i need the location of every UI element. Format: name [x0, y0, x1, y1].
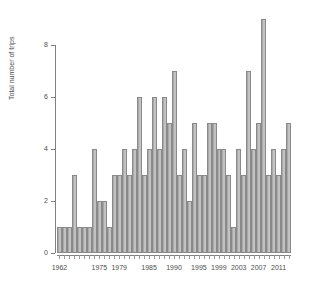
chart-title: [0, 0, 309, 12]
x-tick-mark: [164, 255, 165, 259]
x-tick-mark: [204, 255, 205, 259]
x-tick-mark: [284, 255, 285, 259]
x-tick-mark: [139, 255, 140, 259]
bar-series: [57, 20, 291, 253]
x-tick-mark: [229, 255, 230, 259]
x-tick-mark: [59, 255, 60, 259]
y-tick-mark: [51, 201, 55, 202]
x-tick-mark: [104, 255, 105, 259]
x-tick-mark: [129, 255, 130, 259]
x-tick-mark: [249, 255, 250, 259]
x-tick-mark: [69, 255, 70, 259]
x-tick-mark: [269, 255, 270, 259]
y-tick-label: 6: [34, 93, 48, 100]
x-tick-mark: [89, 255, 90, 259]
y-tick-mark: [51, 97, 55, 98]
y-tick-mark: [51, 149, 55, 150]
x-tick-mark: [64, 255, 65, 259]
x-tick-mark: [174, 255, 175, 259]
y-tick-label: 0: [34, 249, 48, 256]
y-tick-mark: [51, 253, 55, 254]
x-tick-mark: [114, 255, 115, 259]
x-tick-mark: [264, 255, 265, 259]
x-tick-mark: [109, 255, 110, 259]
x-tick-mark: [74, 255, 75, 259]
x-tick-mark: [279, 255, 280, 259]
bar-chart-figure: Total number of trips 02468 196219751979…: [0, 0, 309, 296]
x-tick-mark: [84, 255, 85, 259]
x-tick-mark: [189, 255, 190, 259]
x-tick-mark: [274, 255, 275, 259]
x-tick-label: 1962: [46, 264, 72, 271]
bar: [286, 123, 291, 253]
x-tick-mark: [99, 255, 100, 259]
x-tick-mark: [154, 255, 155, 259]
x-tick-mark: [159, 255, 160, 259]
x-tick-mark: [289, 255, 290, 259]
x-tick-mark: [219, 255, 220, 259]
x-tick-mark: [199, 255, 200, 259]
x-tick-mark: [254, 255, 255, 259]
x-tick-mark: [169, 255, 170, 259]
x-tick-mark: [234, 255, 235, 259]
x-tick-mark: [194, 255, 195, 259]
plot-area: [57, 20, 291, 253]
x-tick-label: 1990: [161, 264, 187, 271]
x-tick-mark: [244, 255, 245, 259]
x-tick-mark: [179, 255, 180, 259]
x-tick-mark: [209, 255, 210, 259]
x-tick-mark: [224, 255, 225, 259]
x-tick-mark: [94, 255, 95, 259]
x-tick-mark: [134, 255, 135, 259]
x-tick-mark: [184, 255, 185, 259]
x-tick-mark: [124, 255, 125, 259]
y-axis-label: Total number of trips: [8, 0, 15, 100]
y-tick-label: 2: [34, 197, 48, 204]
y-axis-line: [55, 45, 56, 253]
x-tick-mark: [79, 255, 80, 259]
x-tick-label: 1979: [106, 264, 132, 271]
x-tick-mark: [259, 255, 260, 259]
y-tick-mark: [51, 45, 55, 46]
y-tick-label: 8: [34, 41, 48, 48]
x-tick-label: 1985: [136, 264, 162, 271]
x-tick-mark: [239, 255, 240, 259]
y-tick-label: 4: [34, 145, 48, 152]
x-tick-mark: [149, 255, 150, 259]
x-tick-label: 2011: [266, 264, 292, 271]
x-tick-mark: [214, 255, 215, 259]
x-tick-mark: [119, 255, 120, 259]
x-tick-mark: [144, 255, 145, 259]
